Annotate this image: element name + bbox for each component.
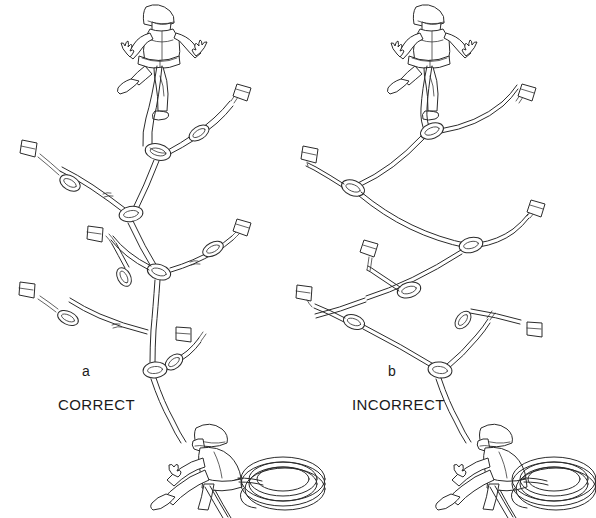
junction-knot-b-upperleft xyxy=(339,177,367,200)
protection-piece-a6 xyxy=(176,327,191,342)
panel-a-verdict-label: CORRECT xyxy=(58,396,135,413)
climber-figure-a xyxy=(117,5,207,146)
climber-figure-b xyxy=(387,5,477,132)
carabiner-a2 xyxy=(57,171,83,194)
master-point-knot-b xyxy=(427,360,453,379)
carabiner-a5 xyxy=(55,307,80,328)
protection-piece-b3 xyxy=(527,200,545,217)
rope-to-belayer-a xyxy=(151,378,186,443)
panel-a-artwork xyxy=(19,5,325,518)
rope-arc-to-master-b xyxy=(363,325,437,370)
figure-line-art xyxy=(0,0,596,518)
panel-b-letter: b xyxy=(388,363,396,379)
climbing-anchor-figure: a CORRECT b INCORRECT xyxy=(0,0,596,518)
rope-arc-lowest-left-b xyxy=(296,285,367,332)
protection-piece-a5 xyxy=(19,282,35,298)
rope-lower-a xyxy=(150,280,160,362)
junction-knot-a-mid xyxy=(118,205,144,224)
carabiner-a3 xyxy=(200,238,226,260)
carabiner-b1 xyxy=(452,308,475,332)
junction-knot-a-top xyxy=(143,141,172,163)
rope-arc-mid-b xyxy=(359,192,545,248)
protection-piece-a2 xyxy=(20,140,37,157)
protection-piece-b1 xyxy=(518,84,536,101)
junction-knot-b-right xyxy=(458,235,485,255)
anchor-leg-lowerleft-b xyxy=(360,240,400,291)
anchor-leg-lower-right-a xyxy=(162,327,206,373)
protection-piece-b4 xyxy=(360,240,378,257)
protection-piece-b6 xyxy=(527,322,542,337)
junction-knot-b-lowerleft xyxy=(395,279,422,300)
protection-piece-a1 xyxy=(233,84,251,101)
rope-arc-upper-left-b xyxy=(358,136,424,186)
carabiner-a4 xyxy=(114,265,135,289)
anchor-leg-lower-left-a xyxy=(19,282,148,334)
anchor-leg-upper-left-b xyxy=(301,146,344,187)
master-point-knot-a xyxy=(142,361,168,379)
panel-a-letter: a xyxy=(82,363,90,379)
protection-piece-a3 xyxy=(233,219,251,236)
panel-b-artwork xyxy=(296,5,596,518)
panel-b-verdict-label: INCORRECT xyxy=(352,396,445,413)
protection-piece-a4 xyxy=(87,226,103,242)
anchor-leg-upper-left-a xyxy=(20,140,129,215)
anchor-leg-mid-left-a xyxy=(87,226,151,289)
belayer-figure-b xyxy=(436,424,596,518)
rope-upper-to-mid-a xyxy=(133,160,159,209)
belayer-figure-a xyxy=(151,424,325,518)
anchor-leg-right-lower-b xyxy=(446,308,542,369)
carabiner-a1 xyxy=(186,122,212,145)
anchor-leg-upper-right-a xyxy=(168,84,251,154)
rope-arc-upper-right-b xyxy=(440,84,536,133)
protection-piece-b5 xyxy=(296,285,312,301)
coiled-rope-a xyxy=(240,457,325,510)
rope-mid-to-lower-a xyxy=(128,221,158,270)
protection-piece-b2 xyxy=(301,146,318,163)
anchor-leg-mid-right-a xyxy=(170,219,251,272)
